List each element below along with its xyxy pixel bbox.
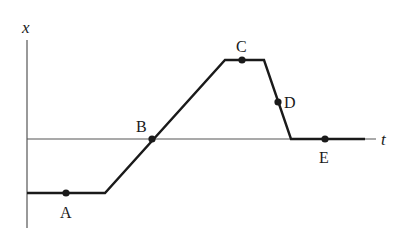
position-curve <box>27 60 365 193</box>
point-d <box>274 98 281 105</box>
point-c <box>238 56 245 63</box>
point-b-label: B <box>136 118 147 135</box>
position-time-graph: x t A B C D E <box>0 0 408 233</box>
point-e-label: E <box>319 149 329 166</box>
point-a <box>62 189 69 196</box>
y-axis-label: x <box>21 18 30 37</box>
point-d-label: D <box>284 94 296 111</box>
t-axis-label: t <box>381 130 387 149</box>
point-c-label: C <box>236 38 247 55</box>
point-e <box>321 135 328 142</box>
point-a-label: A <box>60 204 72 221</box>
point-b <box>148 135 155 142</box>
